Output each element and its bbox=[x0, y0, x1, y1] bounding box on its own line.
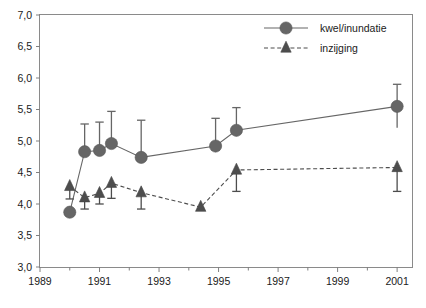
data-point-circle bbox=[79, 146, 91, 158]
y-axis-tick-label: 6,0 bbox=[17, 72, 32, 84]
x-axis: 1989199119931995199719992001 bbox=[28, 267, 409, 287]
data-point-circle bbox=[391, 100, 403, 112]
data-point-circle bbox=[209, 140, 221, 152]
x-axis-tick-label: 1989 bbox=[28, 275, 52, 287]
x-axis-tick-label: 1997 bbox=[266, 275, 290, 287]
y-axis-tick-label: 4,5 bbox=[17, 166, 32, 178]
y-axis-tick-label: 6,5 bbox=[17, 40, 32, 52]
y-axis-tick-label: 5,0 bbox=[17, 135, 32, 147]
y-axis-tick-label: 3,0 bbox=[17, 261, 32, 273]
data-point-circle bbox=[230, 124, 242, 136]
chart-container: 3,03,54,04,55,05,56,06,57,0 198919911993… bbox=[0, 0, 426, 308]
legend-label-0: kwel/inundatie bbox=[320, 22, 387, 34]
x-axis-tick-label: 2001 bbox=[385, 275, 409, 287]
y-axis-tick-label: 7,0 bbox=[17, 9, 32, 21]
x-axis-tick-label: 1999 bbox=[326, 275, 350, 287]
legend-label-1: inzijging bbox=[320, 42, 358, 54]
x-axis-tick-label: 1991 bbox=[88, 275, 112, 287]
data-point-circle bbox=[105, 137, 117, 149]
x-axis-tick-label: 1993 bbox=[147, 275, 171, 287]
data-point-circle bbox=[135, 151, 147, 163]
line-chart: 3,03,54,04,55,05,56,06,57,0 198919911993… bbox=[0, 0, 426, 308]
y-axis-tick-label: 5,5 bbox=[17, 103, 32, 115]
data-point-circle bbox=[64, 206, 76, 218]
legend-circle-marker bbox=[280, 22, 292, 34]
x-axis-tick-label: 1995 bbox=[207, 275, 231, 287]
data-point-circle bbox=[93, 144, 105, 156]
y-axis-tick-label: 3,5 bbox=[17, 229, 32, 241]
y-axis: 3,03,54,04,55,05,56,06,57,0 bbox=[17, 9, 40, 273]
y-axis-tick-label: 4,0 bbox=[17, 198, 32, 210]
